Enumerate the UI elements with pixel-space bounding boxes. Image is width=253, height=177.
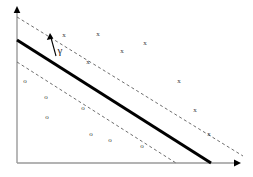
- margin-annotation-group: γ: [47, 33, 63, 56]
- marker-x: x: [207, 130, 211, 138]
- x-axis-arrowhead: [234, 160, 241, 167]
- marker-x: x: [62, 31, 66, 39]
- marker-x: x: [86, 58, 90, 66]
- marker-o: o: [140, 142, 144, 150]
- marker-x: x: [177, 77, 181, 85]
- marker-o: o: [81, 104, 85, 112]
- axes-group: [14, 6, 241, 166]
- y-axis-arrowhead: [14, 6, 21, 13]
- marker-o: o: [45, 113, 49, 121]
- figure-canvas: γ xxxxxxxx ooooooo: [0, 0, 253, 177]
- marker-x: x: [193, 106, 197, 114]
- marker-x: x: [143, 39, 147, 47]
- gamma-label: γ: [57, 44, 63, 56]
- negative-class-markers: ooooooo: [23, 77, 144, 150]
- marker-o: o: [108, 136, 112, 144]
- marker-o: o: [89, 130, 93, 138]
- marker-o: o: [44, 93, 48, 101]
- marker-x: x: [96, 30, 100, 38]
- marker-o: o: [23, 77, 27, 85]
- lower-margin-boundary: [17, 62, 176, 163]
- marker-x: x: [120, 47, 124, 55]
- decision-boundary: [17, 40, 211, 163]
- svm-margin-figure: γ xxxxxxxx ooooooo: [0, 0, 253, 177]
